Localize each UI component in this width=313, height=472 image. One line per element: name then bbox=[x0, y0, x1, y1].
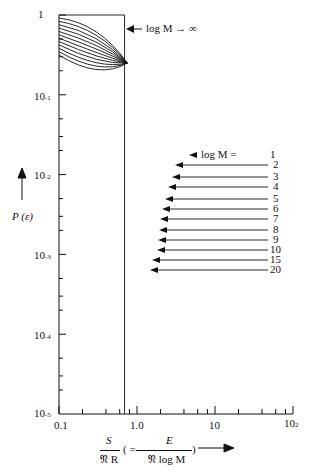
x-label-num-left: S bbox=[106, 434, 112, 446]
legend-arrow-head-icon bbox=[162, 206, 170, 212]
axes-group bbox=[18, 15, 293, 452]
y-axis-label: P (ε) bbox=[12, 210, 33, 222]
legend-arrow-head-icon bbox=[150, 267, 158, 273]
legend-arrow-head-icon bbox=[159, 227, 167, 233]
legend-arrow-head-icon bbox=[158, 237, 166, 243]
x-tick-label-0.1: 0.1 bbox=[54, 419, 68, 431]
chart-canvas bbox=[0, 0, 313, 472]
legend-arrow-head-icon bbox=[168, 184, 176, 190]
x-label-den-left: 𝔑 R bbox=[100, 453, 118, 466]
x-tick-label-100: 102 bbox=[284, 417, 299, 429]
step-curve-infinity bbox=[59, 15, 125, 414]
y-tick-label-1e-5: 10-5 bbox=[34, 407, 51, 419]
x-label-den-right: 𝔑 log M bbox=[148, 453, 185, 466]
infinity-label: log M → ∞ bbox=[146, 22, 197, 34]
legend-arrow-head-icon bbox=[189, 152, 197, 158]
legend-arrow-head-icon bbox=[165, 196, 173, 202]
y-tick-label-1e-1: 10-1 bbox=[34, 90, 51, 102]
x-label-frac-bar-right bbox=[136, 450, 192, 451]
legend-prefix: log M = bbox=[201, 148, 237, 160]
legend-arrows bbox=[126, 25, 268, 273]
curves-group bbox=[59, 15, 127, 414]
y-tick-label-1: 1 bbox=[38, 8, 44, 20]
legend-value: 20 bbox=[270, 263, 281, 275]
y-tick-label-1e-2: 10-2 bbox=[34, 169, 51, 181]
x-label-frac-bar-left bbox=[100, 450, 120, 451]
x-label-paren-close: ) bbox=[192, 443, 196, 455]
x-tick-label-1.0: 1.0 bbox=[130, 419, 144, 431]
x-axis-label: S 𝔑 R ( = E 𝔑 log M ) bbox=[100, 434, 310, 470]
y-tick-label-1e-4: 10-4 bbox=[34, 329, 51, 341]
x-label-num-right: E bbox=[166, 434, 173, 446]
infinity-arrow-head-icon bbox=[126, 25, 134, 33]
legend-value: 2 bbox=[273, 158, 279, 170]
legend-arrow-head-icon bbox=[160, 216, 168, 222]
legend-value: 4 bbox=[273, 180, 279, 192]
x-tick-label-10: 10 bbox=[209, 419, 220, 431]
legend-arrow-head-icon bbox=[157, 247, 165, 253]
legend-arrow-head-icon bbox=[152, 257, 160, 263]
y-label-arrow-head-icon bbox=[18, 168, 26, 178]
legend-arrow-head-icon bbox=[175, 162, 183, 168]
x-label-paren-open: ( = bbox=[123, 443, 136, 455]
y-tick-label-1e-3: 10-3 bbox=[34, 249, 51, 261]
legend-arrow-head-icon bbox=[172, 174, 180, 180]
